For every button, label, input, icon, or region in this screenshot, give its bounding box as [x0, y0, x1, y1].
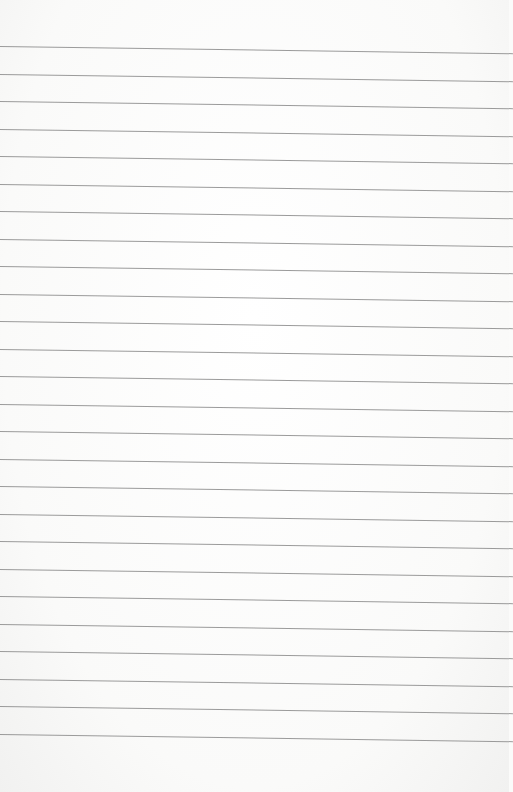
- ruled-line: [0, 184, 513, 192]
- ruled-line: [0, 211, 513, 219]
- ruled-line: [0, 486, 513, 494]
- ruled-line: [0, 129, 513, 137]
- ruled-line: [0, 101, 513, 109]
- ruled-line: [0, 349, 513, 357]
- ruled-line: [0, 431, 513, 439]
- ruled-line: [0, 514, 513, 522]
- ruled-line: [0, 46, 513, 54]
- ruled-line: [0, 706, 513, 714]
- ruled-line: [0, 376, 513, 384]
- ruled-line: [0, 651, 513, 659]
- ruled-line: [0, 624, 513, 632]
- ruled-line: [0, 459, 513, 467]
- ruled-line: [0, 321, 513, 329]
- ruled-line: [0, 156, 513, 164]
- ruled-line: [0, 404, 513, 412]
- ruled-line: [0, 239, 513, 247]
- ruled-line: [0, 294, 513, 302]
- ruled-line: [0, 734, 513, 742]
- ruled-line: [0, 541, 513, 549]
- ruled-line: [0, 596, 513, 604]
- ruled-line: [0, 266, 513, 274]
- ruled-line: [0, 74, 513, 82]
- ruled-line: [0, 569, 513, 577]
- ruled-line: [0, 679, 513, 687]
